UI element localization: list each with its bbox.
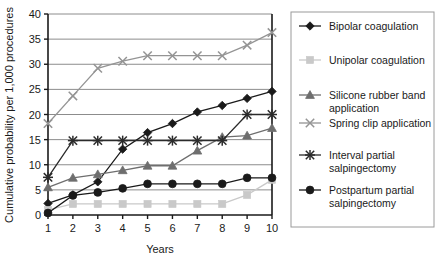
cumulative-probability-line-chart: 0510152025303540 12345678910 Cumulative … [0,0,442,264]
asterisk-marker [68,136,78,146]
legend-label: Postpartum partial [329,184,414,196]
legend-label-line2: salpingectomy [329,197,397,209]
x-tick-label: 1 [45,222,51,234]
circle-marker [243,174,251,182]
chart-figure: 0510152025303540 12345678910 Cumulative … [0,0,442,264]
square-marker [144,200,151,207]
y-tick-label: 10 [29,159,41,171]
asterisk-marker [93,136,103,146]
asterisk-marker [192,136,202,146]
y-tick-label: 40 [29,8,41,20]
legend-label: Interval partial [329,149,395,161]
square-marker [219,200,226,207]
legend: Bipolar coagulationUnipolar coagulationS… [291,12,434,227]
square-marker [194,200,201,207]
circle-marker [193,180,201,188]
circle-marker [144,180,152,188]
asterisk-marker [305,150,315,160]
y-tick-label: 0 [35,209,41,221]
asterisk-marker [118,136,128,146]
y-tick-label: 20 [29,109,41,121]
circle-marker [69,192,77,200]
y-axis-title: Cumulative probability per 1,000 procedu… [3,7,15,223]
asterisk-marker [167,136,177,146]
x-tick-label: 6 [169,222,175,234]
asterisk-marker [143,136,153,146]
legend-label: Unipolar coagulation [329,54,425,66]
x-axis-title: Years [146,243,174,255]
legend-label-line2: application [329,102,379,114]
x-tick-label: 4 [120,222,126,234]
square-marker [306,56,313,63]
y-tick-label: 15 [29,134,41,146]
legend-label: Bipolar coagulation [329,20,418,32]
circle-marker [218,180,226,188]
circle-marker [169,180,177,188]
asterisk-marker [242,110,252,120]
legend-label: Spring clip application [329,117,431,129]
legend-label-line2: salpingectomy [329,162,397,174]
x-tick-label: 2 [70,222,76,234]
circle-marker [94,188,102,196]
legend-label: Silicone rubber band [329,89,425,101]
square-marker [69,200,76,207]
y-tick-label: 5 [35,184,41,196]
circle-marker [119,184,127,192]
circle-marker [268,174,276,182]
x-tick-label: 3 [95,222,101,234]
asterisk-marker [217,136,227,146]
asterisk-marker [267,110,277,120]
asterisk-marker [43,172,53,182]
square-marker [244,191,251,198]
y-tick-label: 30 [29,58,41,70]
circle-marker [44,209,52,217]
y-tick-label: 35 [29,33,41,45]
x-tick-label: 8 [219,222,225,234]
y-tick-label: 25 [29,83,41,95]
circle-marker [306,186,314,194]
square-marker [119,200,126,207]
square-marker [169,200,176,207]
x-tick-label: 9 [244,222,250,234]
square-marker [94,200,101,207]
x-tick-label: 5 [144,222,150,234]
x-tick-label: 10 [266,222,278,234]
x-tick-label: 7 [194,222,200,234]
